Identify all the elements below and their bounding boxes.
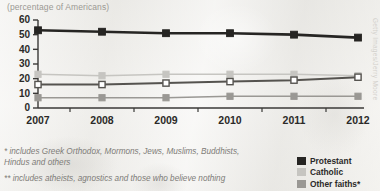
legend-label: Protestant — [310, 157, 351, 165]
series-marker — [99, 28, 106, 35]
series-line — [38, 74, 358, 75]
y-axis-tick-label: 10 — [19, 88, 31, 99]
series-marker — [227, 93, 233, 99]
legend-item: Catholic — [297, 167, 380, 179]
series-marker — [99, 95, 105, 101]
series-marker — [35, 81, 41, 87]
x-axis: 200720082009201020112012 — [26, 108, 370, 126]
data-series-group — [35, 27, 362, 101]
series-marker — [355, 34, 362, 41]
series-marker — [163, 95, 169, 101]
x-axis-tick-label: 2008 — [90, 114, 114, 126]
series-marker — [227, 79, 233, 85]
legend-swatch — [297, 168, 306, 176]
series-marker — [99, 73, 105, 79]
y-axis-tick-label: 50 — [19, 29, 31, 40]
series-marker — [355, 93, 361, 99]
series-line — [38, 96, 358, 97]
legend-label: Other faiths* — [310, 180, 360, 188]
series-marker — [291, 77, 297, 83]
series-marker — [35, 95, 41, 101]
legend-item: Other faiths* — [297, 178, 380, 190]
footnote-one: * includes Greek Orthodox, Mormons, Jews… — [4, 146, 254, 168]
series-marker — [99, 81, 105, 87]
series-marker — [355, 74, 361, 80]
legend-swatch — [297, 157, 306, 165]
getty-watermark: Getty Images/Jerry Moore — [372, 18, 379, 100]
x-axis-tick-label: 2009 — [154, 114, 178, 126]
series-marker — [163, 30, 170, 37]
y-axis-tick-label: 30 — [19, 58, 31, 69]
series-line — [38, 30, 358, 37]
chart-subtitle: (percentage of Americans) — [7, 2, 109, 12]
series-marker — [35, 71, 41, 77]
series-marker — [291, 93, 297, 99]
x-axis-tick-label: 2007 — [26, 114, 50, 126]
y-axis-tick-label: 60 — [19, 14, 31, 25]
x-axis-tick-label: 2011 — [283, 114, 306, 126]
series-marker — [227, 71, 233, 77]
legend-label: Catholic — [310, 168, 343, 176]
line-chart-svg: 0102030405060 200720082009201020112012 — [0, 14, 380, 132]
series-marker — [163, 80, 169, 86]
chart-footnotes: * includes Greek Orthodox, Mormons, Jews… — [4, 146, 254, 184]
footnote-two: ** includes atheists, agnostics and thos… — [4, 173, 254, 184]
chart-legend: ProtestantCatholicOther faiths* — [297, 155, 380, 190]
series-line — [38, 77, 358, 84]
y-axis-tick-label: 40 — [19, 44, 31, 55]
x-axis-tick-label: 2010 — [218, 114, 242, 126]
y-axis-tick-label: 0 — [24, 102, 30, 113]
series-marker — [291, 31, 298, 38]
legend-swatch — [297, 180, 306, 188]
x-axis-tick-label: 2012 — [346, 114, 370, 126]
chart-plot-area: 0102030405060 200720082009201020112012 — [0, 14, 380, 132]
series-marker — [35, 27, 42, 34]
y-axis-tick-label: 20 — [19, 73, 31, 84]
legend-item: Protestant — [297, 155, 380, 167]
series-marker — [163, 71, 169, 77]
series-marker — [227, 30, 234, 37]
